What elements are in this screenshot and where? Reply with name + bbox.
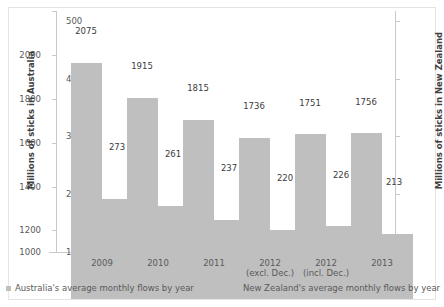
- legend-label: New Zealand's average monthly flows by y…: [243, 284, 440, 293]
- bar-value-label-australia: 1751: [293, 99, 327, 108]
- category-label-year: 2013: [371, 258, 393, 268]
- category-label-year: 2011: [203, 258, 225, 268]
- left-axis-tick-label: 1000: [19, 248, 41, 257]
- bar-value-label-australia: 1756: [349, 98, 383, 107]
- legend-swatch-icon: [234, 286, 239, 291]
- right-axis-title: Millions of sticks in New Zealand: [435, 59, 444, 189]
- right-axis-tick-label: 500: [66, 17, 82, 26]
- left-axis-title: Millions of sticks in Australia: [27, 59, 36, 189]
- category-label-year: 2012: [259, 258, 281, 268]
- chart-legend: Australia's average monthly flows by yea…: [9, 280, 437, 296]
- left-axis-tick-label: 1200: [19, 226, 41, 235]
- left-axis-tick: [52, 187, 56, 188]
- left-axis-tick: [52, 143, 56, 144]
- left-axis-tick: [52, 230, 56, 231]
- legend-label: Australia's average monthly flows by yea…: [15, 284, 194, 293]
- legend-item-australia[interactable]: Australia's average monthly flows by yea…: [6, 284, 194, 293]
- category-label-year: 2012: [315, 258, 337, 268]
- category-label: 2013: [340, 258, 424, 268]
- bar-value-label-australia: 2075: [69, 27, 103, 36]
- bar-value-label-newzealand: 213: [377, 178, 411, 187]
- left-axis-tick: [52, 11, 56, 12]
- category-label-year: 2009: [91, 258, 113, 268]
- category-label-year: 2010: [147, 258, 169, 268]
- legend-swatch-icon: [6, 286, 11, 291]
- bar-value-label-australia: 1736: [237, 102, 271, 111]
- bar-australia[interactable]: [183, 120, 214, 299]
- bar-australia[interactable]: [351, 133, 382, 299]
- bar-value-label-australia: 1815: [181, 84, 215, 93]
- chart-container: 2000 1800 1600 1400 1200 1000 500 400 30…: [8, 7, 436, 300]
- bar-australia[interactable]: [127, 98, 158, 299]
- left-axis-tick: [52, 99, 56, 100]
- right-axis-tick: [396, 21, 400, 22]
- bar-value-label-australia: 1915: [125, 62, 159, 71]
- left-axis-line: [56, 11, 57, 253]
- left-axis-tick: [52, 55, 56, 56]
- left-axis-tick: [52, 252, 56, 253]
- legend-item-newzealand[interactable]: New Zealand's average monthly flows by y…: [234, 284, 440, 293]
